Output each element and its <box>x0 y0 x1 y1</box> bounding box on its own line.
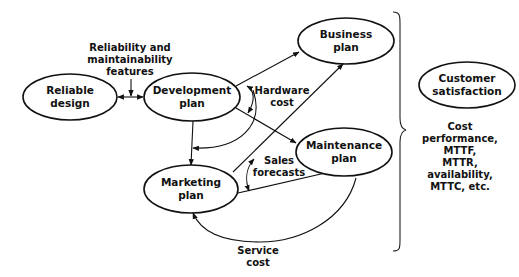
node-label: Marketing <box>161 176 221 188</box>
label-reliability-features: Reliability and maintainability features <box>87 42 173 77</box>
node-label: plan <box>178 189 204 201</box>
hardware-cost-angle-arc <box>247 86 253 113</box>
svg-text:MTTF,: MTTF, <box>444 145 477 156</box>
svg-text:Reliability and: Reliability and <box>89 42 170 53</box>
label-service-cost: Service cost <box>237 245 279 268</box>
svg-text:cost: cost <box>246 257 270 268</box>
grouping-brace <box>393 12 406 251</box>
svg-text:MTTR,: MTTR, <box>442 157 478 168</box>
node-maintenance-plan: Maintenance plan <box>296 128 392 176</box>
svg-text:cost: cost <box>270 97 294 108</box>
svg-text:forecasts: forecasts <box>253 167 305 178</box>
edge-development-to-business <box>236 52 299 86</box>
edge-development-to-maintenance <box>236 108 296 143</box>
node-business-plan: Business plan <box>298 18 394 64</box>
node-reliable-design: Reliable design <box>23 74 117 120</box>
customer-satisfaction-metrics: Cost performance, MTTF, MTTR, availabili… <box>422 121 498 192</box>
edge-development-to-marketing <box>191 121 193 165</box>
svg-text:MTTC, etc.: MTTC, etc. <box>430 181 490 192</box>
reliability-planning-diagram: Reliable design Development plan Busines… <box>0 0 519 277</box>
svg-text:Cost: Cost <box>448 121 473 132</box>
node-label: Maintenance <box>306 139 382 151</box>
node-label: plan <box>333 41 359 53</box>
node-label: Reliable <box>46 84 94 96</box>
svg-text:maintainability: maintainability <box>87 54 173 65</box>
svg-text:performance,: performance, <box>422 133 498 144</box>
svg-text:Service: Service <box>237 245 279 256</box>
node-label: Customer <box>439 72 497 84</box>
node-label: Business <box>320 28 372 40</box>
node-marketing-plan: Marketing plan <box>144 165 238 213</box>
node-label: design <box>50 97 89 109</box>
node-development-plan: Development plan <box>144 73 240 121</box>
svg-text:Sales: Sales <box>264 155 294 166</box>
node-label: plan <box>179 97 205 109</box>
node-label: plan <box>331 152 357 164</box>
node-label: satisfaction <box>432 85 501 97</box>
node-label: Development <box>153 84 232 96</box>
svg-text:features: features <box>106 66 153 77</box>
svg-text:Hardware: Hardware <box>255 85 310 96</box>
node-customer-satisfaction: Customer satisfaction <box>419 62 515 108</box>
svg-text:availability,: availability, <box>427 169 492 180</box>
